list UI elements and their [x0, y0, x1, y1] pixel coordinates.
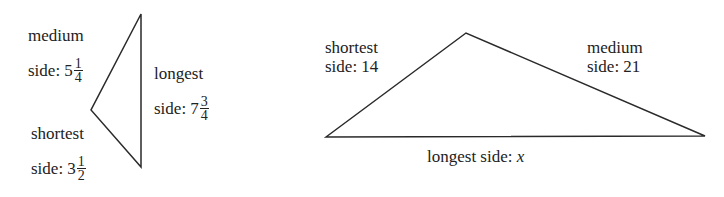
t1-longest-label: longest side: 734 [154, 64, 209, 124]
t1-shortest-line2: side: 312 [31, 157, 86, 184]
t1-medium-whole: 5 [64, 61, 73, 80]
t1-medium-prefix: side: [28, 61, 64, 80]
denominator: 4 [74, 71, 83, 84]
t1-shortest-prefix: side: [31, 159, 67, 178]
t1-longest-line2: side: 734 [154, 97, 209, 124]
t2-shortest-line2: side: 14 [325, 57, 378, 76]
t2-shortest-line1: shortest [325, 38, 378, 57]
t1-shortest-line1: shortest [31, 124, 86, 143]
t1-longest-line1: longest [154, 64, 209, 83]
t1-longest-fraction: 34 [200, 95, 209, 122]
t1-medium-label: medium side: 514 [28, 26, 84, 86]
t2-longest-variable: x [517, 147, 525, 166]
t1-shortest-fraction: 12 [77, 155, 86, 182]
t1-shortest-label: shortest side: 312 [31, 124, 86, 184]
numerator: 3 [200, 95, 209, 109]
t2-medium-line1: medium [587, 38, 643, 57]
t2-medium-label: medium side: 21 [587, 38, 643, 76]
triangle-1 [91, 14, 141, 167]
t1-medium-line1: medium [28, 26, 84, 45]
t2-longest-prefix: longest side: [427, 147, 517, 166]
diagram-canvas [0, 0, 724, 197]
t1-longest-whole: 7 [190, 99, 199, 118]
numerator: 1 [74, 57, 83, 71]
t2-shortest-label: shortest side: 14 [325, 38, 378, 76]
numerator: 1 [77, 155, 86, 169]
denominator: 4 [200, 109, 209, 122]
t1-medium-fraction: 14 [74, 57, 83, 84]
t2-medium-line2: side: 21 [587, 57, 643, 76]
t1-longest-prefix: side: [154, 99, 190, 118]
t1-medium-line2: side: 514 [28, 59, 84, 86]
t2-longest-label: longest side: x [427, 147, 524, 166]
triangle-2 [326, 33, 705, 137]
denominator: 2 [77, 169, 86, 182]
t1-shortest-whole: 3 [67, 159, 76, 178]
